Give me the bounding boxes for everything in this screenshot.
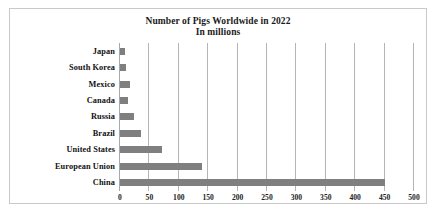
bar-row [120,125,422,141]
bar[interactable] [120,113,134,120]
x-axis-tick-label: 500 [408,193,419,202]
bar[interactable] [120,64,126,71]
bar-row [120,175,422,191]
x-axis-tick-label: 200 [232,193,243,202]
y-axis-label: European Union [10,158,115,174]
bar[interactable] [120,163,202,170]
x-axis-tick-label: 0 [118,193,122,202]
chart-title-block: Number of Pigs Worldwide in 2022 In mill… [10,16,426,38]
bar-row [120,43,422,59]
y-axis-label: Japan [10,43,115,59]
bar[interactable] [120,179,385,186]
x-axis-tick-label: 150 [202,193,213,202]
x-axis-tick-label: 300 [291,193,302,202]
chart-subtitle: In millions [10,27,426,38]
bar-row [120,76,422,92]
bar[interactable] [120,130,141,137]
x-axis-tick-label: 350 [320,193,331,202]
x-axis-tick-label: 50 [146,193,154,202]
y-axis-label: Mexico [10,76,115,92]
x-axis-tick-labels: 050100150200250300350400450500 [119,193,422,205]
bar[interactable] [120,146,162,153]
y-axis-label: Brazil [10,125,115,141]
bar-row [120,92,422,108]
bar[interactable] [120,81,130,88]
bar-row [120,59,422,75]
y-axis-label: Canada [10,92,115,108]
x-axis-tick-label: 400 [349,193,360,202]
bar[interactable] [120,48,125,55]
bar-row [120,109,422,125]
chart-title: Number of Pigs Worldwide in 2022 [10,16,426,27]
plot-area [119,43,422,191]
y-axis-label: South Korea [10,59,115,75]
x-axis-tick-label: 250 [261,193,272,202]
y-axis-category-labels: JapanSouth KoreaMexicoCanadaRussiaBrazil… [10,43,115,191]
y-axis-label: China [10,175,115,191]
y-axis-label: Russia [10,109,115,125]
x-axis-tick-label: 450 [379,193,390,202]
bar-row [120,158,422,174]
bar-row [120,142,422,158]
bar[interactable] [120,97,128,104]
chart-frame: Number of Pigs Worldwide in 2022 In mill… [9,8,427,204]
bar-series [120,43,422,191]
x-axis-tick-label: 100 [173,193,184,202]
y-axis-label: United States [10,142,115,158]
